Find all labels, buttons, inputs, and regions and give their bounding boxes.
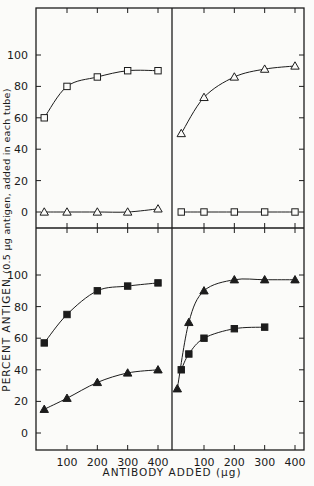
- svg-text:0: 0: [21, 427, 28, 440]
- svg-text:0: 0: [21, 206, 28, 219]
- svg-text:300: 300: [254, 456, 275, 469]
- series-curve: [181, 327, 264, 370]
- svg-text:40: 40: [14, 143, 28, 156]
- svg-text:80: 80: [14, 301, 28, 314]
- svg-text:80: 80: [14, 80, 28, 93]
- x-axis-title: ANTIBODY ADDED (μg): [102, 466, 241, 478]
- panel-frames: [36, 8, 304, 450]
- svg-text:100: 100: [57, 456, 78, 469]
- series-curve: [44, 283, 158, 343]
- series-curve: [44, 209, 158, 212]
- svg-text:60: 60: [14, 332, 28, 345]
- svg-text:400: 400: [285, 456, 306, 469]
- chart-figure: 020406080100020406080100 100200300400100…: [0, 0, 314, 486]
- series-curve: [44, 370, 158, 410]
- series-curve: [44, 70, 158, 118]
- svg-text:40: 40: [14, 364, 28, 377]
- svg-text:20: 20: [14, 175, 28, 188]
- data-markers: [40, 62, 299, 413]
- svg-text:60: 60: [14, 112, 28, 125]
- y-axis-title: PERCENT ANTIGEN (0.5 μg antigen, added i…: [0, 88, 12, 391]
- series-curve: [177, 279, 295, 389]
- series-curve: [181, 66, 295, 134]
- svg-text:100: 100: [7, 49, 28, 62]
- axis-ticks: [36, 8, 304, 450]
- svg-text:20: 20: [14, 395, 28, 408]
- data-curves: [44, 66, 295, 409]
